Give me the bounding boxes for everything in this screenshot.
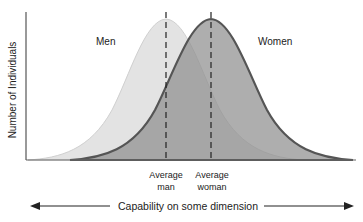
left-arrow-icon <box>30 202 40 210</box>
y-axis-label: Number of Individuals <box>7 42 18 139</box>
distribution-chart: Men Women Average man Average woman Numb… <box>0 0 363 222</box>
women-label: Women <box>258 36 292 47</box>
right-arrow-icon <box>344 202 354 210</box>
x-axis-label: Capability on some dimension <box>118 200 258 212</box>
average-woman-label-line1: Average <box>195 170 228 180</box>
average-woman-label-line2: woman <box>196 182 226 192</box>
average-man-label-line2: man <box>157 182 175 192</box>
average-man-label-line1: Average <box>149 170 182 180</box>
men-label: Men <box>96 36 115 47</box>
